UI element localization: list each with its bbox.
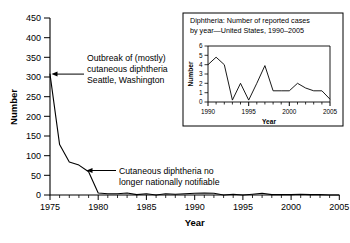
inset-y-tick-label: 6 (199, 42, 203, 49)
inset-x-tick-label: 2000 (282, 108, 297, 115)
y-tick-label: 200 (26, 112, 41, 122)
y-tick-label: 450 (26, 13, 41, 23)
inset-x-tick-label: 1990 (201, 108, 216, 115)
outbreak-arrowhead (52, 72, 58, 77)
x-tick-label: 1975 (40, 202, 60, 212)
inset-x-axis-title: Year (262, 118, 276, 125)
x-tick-label: 1980 (88, 202, 108, 212)
outbreak-label-line3: Seattle, Washington (87, 75, 165, 85)
x-tick-label: 2005 (329, 202, 349, 212)
x-tick-label: 2000 (281, 202, 301, 212)
y-tick-label: 400 (26, 33, 41, 43)
inset-y-tick-label: 4 (199, 61, 203, 68)
inset-y-tick-label: 0 (199, 98, 203, 105)
main-y-ticks (44, 18, 50, 195)
main-x-tick-labels: 1975 1980 1985 1990 1995 2000 2005 (40, 202, 349, 212)
y-tick-label: 250 (26, 92, 41, 102)
x-tick-label: 1990 (185, 202, 205, 212)
y-tick-label: 0 (36, 190, 41, 200)
annotation-notifiable: Cutaneous diphtheria no longer nationall… (87, 166, 220, 187)
x-tick-label: 1985 (136, 202, 156, 212)
x-tick-label: 1995 (233, 202, 253, 212)
figure-container: 0 50 100 150 200 250 300 350 400 450 (0, 0, 350, 243)
notifiable-label-line1: Cutaneous diphtheria no (119, 166, 214, 176)
outbreak-label-line2: cutaneous diphtheria (87, 64, 168, 74)
inset-x-tick-label: 1995 (242, 108, 257, 115)
inset-chart: Diphtheria: Number of reported cases by … (183, 13, 343, 126)
main-y-axis-title: Number (8, 89, 19, 125)
notifiable-arrowhead (87, 168, 93, 173)
y-tick-label: 100 (26, 151, 41, 161)
y-tick-label: 350 (26, 53, 41, 63)
inset-y-tick-label: 2 (199, 80, 203, 87)
inset-y-axis-title: Number (187, 61, 194, 86)
outbreak-label-line1: Outbreak of (mostly) (87, 53, 166, 63)
inset-title-line1: Diphtheria: Number of reported cases (190, 16, 310, 25)
y-tick-label: 50 (31, 171, 41, 181)
inset-y-tick-label: 3 (199, 70, 203, 77)
inset-y-tick-label: 1 (199, 89, 203, 96)
y-tick-label: 300 (26, 72, 41, 82)
inset-y-tick-labels: 0 1 2 3 4 5 6 (199, 42, 203, 105)
inset-y-tick-label: 5 (199, 52, 203, 59)
notifiable-label-line2: longer nationally notifiable (119, 177, 220, 187)
main-x-axis-title: Year (185, 217, 205, 228)
annotation-outbreak: Outbreak of (mostly) cutaneous diphtheri… (52, 53, 168, 85)
main-y-tick-labels: 0 50 100 150 200 250 300 350 400 450 (26, 13, 41, 200)
inset-title-line2: by year—United States, 1990–2005 (190, 26, 304, 35)
inset-x-tick-label: 2005 (323, 108, 338, 115)
y-tick-label: 150 (26, 131, 41, 141)
diphtheria-chart: 0 50 100 150 200 250 300 350 400 450 (0, 0, 350, 243)
main-x-major-ticks (50, 195, 339, 200)
